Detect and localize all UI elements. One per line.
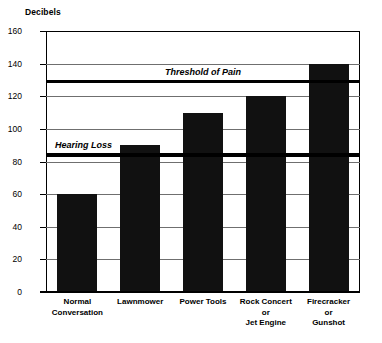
y-tick-label-80: 80: [0, 157, 22, 167]
category-label-line: Lawnmower: [109, 297, 172, 308]
y-tick-mark-40: [40, 227, 46, 228]
y-tick-label-160: 160: [0, 26, 22, 36]
category-label: Rock ConcertorJet Engine: [234, 297, 297, 329]
category-label: FirecrackerorGunshot: [297, 297, 360, 329]
y-tick-mark-20: [40, 259, 46, 260]
y-tick-label-40: 40: [0, 222, 22, 232]
category-label: Lawnmower: [109, 297, 172, 308]
category-label-line: Rock Concert: [234, 297, 297, 308]
threshold-rule: [46, 80, 360, 83]
y-tick-label-60: 60: [0, 189, 22, 199]
bar: [57, 194, 97, 292]
y-tick-mark-140: [40, 64, 46, 65]
category-label-line: Conversation: [46, 308, 109, 319]
category-label-line: Gunshot: [297, 318, 360, 329]
y-tick-mark-120: [40, 96, 46, 97]
threshold-label: Hearing Loss: [52, 140, 115, 150]
y-tick-mark-60: [40, 194, 46, 195]
category-label-line: Jet Engine: [234, 318, 297, 329]
category-label: Power Tools: [172, 297, 235, 308]
threshold-rule: [46, 153, 360, 156]
category-label-line: Normal: [46, 297, 109, 308]
plot-area: 160140120100806040200 Threshold of PainH…: [46, 31, 360, 292]
y-tick-mark-160: [40, 31, 46, 32]
bar: [309, 64, 349, 292]
bar: [120, 145, 160, 292]
y-tick-label-100: 100: [0, 124, 22, 134]
x-axis-baseline: [40, 291, 360, 293]
category-label-line: or: [234, 308, 297, 319]
y-tick-mark-80: [40, 162, 46, 163]
bar: [183, 113, 223, 292]
decibel-bar-chart: Decibels 160140120100806040200 Threshold…: [0, 0, 382, 343]
bar: [246, 96, 286, 292]
y-tick-label-0: 0: [0, 287, 22, 297]
category-label-line: Firecracker: [297, 297, 360, 308]
y-tick-label-20: 20: [0, 254, 22, 264]
y-tick-label-140: 140: [0, 59, 22, 69]
y-axis-title: Decibels: [25, 7, 61, 17]
category-label-line: Power Tools: [172, 297, 235, 308]
category-label: NormalConversation: [46, 297, 109, 318]
y-tick-label-120: 120: [0, 91, 22, 101]
category-label-line: or: [297, 308, 360, 319]
y-tick-mark-100: [40, 129, 46, 130]
threshold-label: Threshold of Pain: [162, 67, 244, 77]
